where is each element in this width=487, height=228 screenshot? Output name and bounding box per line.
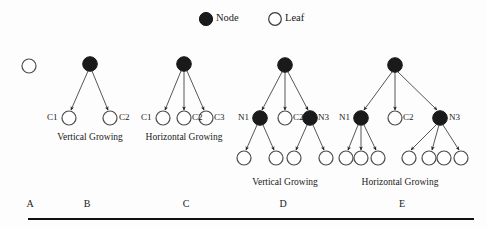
panel-d-edge-root-n3 [288,72,308,110]
panel-d-edge-root-n1 [262,72,282,110]
bottom-divider [28,218,474,220]
panel-d-leaf-n3-2-icon [319,151,333,165]
panel-e-label-c2: C2 [403,113,414,122]
panel-d-leaf-n1-2-icon [269,151,283,165]
panel-letter-c: C [183,199,190,209]
panel-e-leaf-n3-4-icon [454,151,468,165]
panel-e-leaf-n1-3-icon [371,151,385,165]
panel-e-node-n3-icon [433,111,448,126]
panel-d-caption: Vertical Growing [252,178,318,188]
panel-d-edge-n1-leaf-1 [246,125,257,150]
panel-c-leaf-c1-icon [156,111,170,125]
panel-a-leaf-icon [22,59,36,73]
panel-letter-e: E [399,199,405,209]
panel-c-root-node-icon [177,57,192,72]
panel-e-leaf-n3-3-icon [437,151,451,165]
legend-node-marker-icon [199,12,212,25]
panel-e-caption: Horizontal Growing [362,178,439,188]
panel-b-leaf-c1-icon [62,111,76,125]
panel-c-label-c1: C1 [141,113,152,122]
panel-d-edge-n1-leaf-2 [263,125,274,150]
panel-b-edge-2 [92,71,108,110]
panel-e-leaf-n3-1-icon [402,151,416,165]
panel-e-edge-n3-leaf-1 [411,125,436,150]
panel-e-root-node-icon [388,58,403,73]
panel-e-edge-n1-leaf-1 [348,125,358,150]
panel-d-label-n3: N3 [318,113,329,122]
panel-b-caption: Vertical Growing [57,133,123,143]
panel-c-label-c2: C2 [192,113,203,122]
panel-e-leaf-n1-2-icon [354,151,368,165]
panel-e-leaf-c2-icon [388,111,402,125]
panel-b-label-c2: C2 [119,113,130,122]
panel-d-label-n1: N1 [238,113,249,122]
panel-d-root-node-icon [278,58,293,73]
panel-letter-b: B [84,199,91,209]
panel-e-edge-n3-leaf-2 [432,125,439,150]
panel-b-leaf-c2-icon [103,111,117,125]
panel-letter-d: D [279,199,286,209]
panel-d-node-n3-icon [303,111,318,126]
legend-leaf-marker-icon [269,13,282,26]
panel-d-edge-n3-leaf-2 [313,125,324,150]
panel-e-leaf-n3-2-icon [422,151,436,165]
panel-d-leaf-c2-icon [278,111,292,125]
panel-d-leaf-n1-1-icon [237,151,251,165]
panel-e-label-n1: N1 [339,113,350,122]
panel-d-leaf-n3-1-icon [287,151,301,165]
panel-d-edge-n3-leaf-1 [296,125,307,150]
panel-d-node-n1-icon [253,111,268,126]
panel-e-label-n3: N3 [449,113,460,122]
panel-e-edge-root-n3 [398,72,437,110]
panel-e-edge-root-n1 [364,72,392,110]
panel-e-edge-n1-leaf-3 [364,125,376,150]
panel-d-label-c2: C2 [293,113,304,122]
panel-c-caption: Horizontal Growing [146,133,223,143]
figure-container: Node Leaf C1 C2 Vertical Growing C1 C2 C… [0,0,487,228]
panel-b-label-c1: C1 [47,113,58,122]
panel-c-leaf-c2-icon [177,111,191,125]
panel-e-leaf-n1-1-icon [339,151,353,165]
panel-b-root-node-icon [83,57,98,72]
legend-leaf-label: Leaf [285,13,304,24]
panel-letter-a: A [26,199,33,209]
panel-b-edge-1 [71,71,88,110]
panel-c-edge-1 [165,71,181,110]
panel-e-node-n1-icon [354,111,369,126]
legend-node-label: Node [216,13,239,24]
panel-c-label-c3: C3 [214,113,225,122]
panel-c-edge-3 [187,71,204,110]
panel-e-edge-n3-leaf-3 [443,125,459,150]
